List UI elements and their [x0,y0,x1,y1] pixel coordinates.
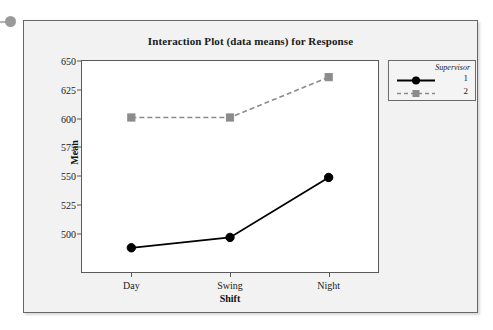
data-point-s2-swing[interactable] [226,114,233,121]
legend-row-2[interactable]: 2 [389,86,475,99]
legend-key-2 [395,86,437,99]
y-tick-label: 575 [61,142,76,153]
x-tick-mark [329,272,330,277]
legend-label-1: 1 [464,73,469,83]
x-tick-mark [131,272,132,277]
y-tick-mark [77,147,82,148]
y-tick-mark [77,176,82,177]
y-tick-mark [77,61,82,62]
y-tick-label: 525 [61,200,76,211]
data-point-s2-night[interactable] [325,74,332,81]
x-tick-mark [230,272,231,277]
y-tick-label: 500 [61,228,76,239]
legend-label-2: 2 [464,86,469,96]
bullet-dot-icon [5,16,16,27]
data-point-s2-day[interactable] [128,114,135,121]
x-tick-label-night: Night [317,280,340,291]
y-tick-mark [77,205,82,206]
x-tick-label-swing: Swing [217,280,243,291]
y-tick-label: 550 [61,171,76,182]
y-tick-mark [77,233,82,234]
plot-area: Mean Shift 500525550575600625650DaySwing… [81,60,379,273]
y-tick-mark [77,89,82,90]
series-line-2 [131,77,328,117]
data-point-s1-night[interactable] [324,173,332,181]
legend-row-1[interactable]: 1 [389,73,475,86]
legend-title: Supervisor [435,63,470,72]
x-axis-title: Shift [82,293,378,304]
data-point-s1-day[interactable] [127,244,135,252]
y-tick-label: 625 [61,84,76,95]
x-tick-label-day: Day [123,280,140,291]
chart-title: Interaction Plot (data means) for Respon… [24,35,477,47]
plot-svg [82,61,378,272]
y-tick-label: 650 [61,56,76,67]
chart-legend: Supervisor 12 [388,60,476,101]
y-tick-label: 600 [61,113,76,124]
chart-window: Interaction Plot (data means) for Respon… [23,20,478,313]
data-point-s1-swing[interactable] [226,233,234,241]
legend-key-1 [395,73,437,86]
y-tick-mark [77,118,82,119]
